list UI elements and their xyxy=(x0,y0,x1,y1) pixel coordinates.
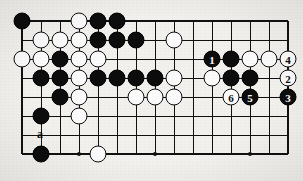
stone-white[interactable] xyxy=(71,108,88,125)
move-stone-black-5[interactable]: 5 xyxy=(242,89,259,106)
stone-black[interactable] xyxy=(90,70,107,87)
stone-black[interactable] xyxy=(33,146,50,163)
stone-white[interactable] xyxy=(52,32,69,49)
stone-white[interactable] xyxy=(166,70,183,87)
grid-line-vertical xyxy=(231,21,232,154)
move-stone-black-1[interactable]: 1 xyxy=(204,51,221,68)
move-stone-white-6[interactable]: 6 xyxy=(223,89,240,106)
stone-black[interactable] xyxy=(33,108,50,125)
stone-black[interactable] xyxy=(109,70,126,87)
stone-white[interactable] xyxy=(242,51,259,68)
stone-black[interactable] xyxy=(14,13,31,30)
move-number-label: 2 xyxy=(281,71,296,86)
stone-black[interactable] xyxy=(52,70,69,87)
stone-white[interactable] xyxy=(166,89,183,106)
stone-white[interactable] xyxy=(71,70,88,87)
move-stone-white-2[interactable]: 2 xyxy=(280,70,297,87)
stone-white[interactable] xyxy=(33,51,50,68)
stone-black[interactable] xyxy=(109,13,126,30)
stone-white[interactable] xyxy=(90,51,107,68)
stone-white[interactable] xyxy=(204,70,221,87)
stone-black[interactable] xyxy=(90,13,107,30)
move-stone-black-3[interactable]: 3 xyxy=(280,89,297,106)
stone-white[interactable] xyxy=(14,51,31,68)
stone-white[interactable] xyxy=(33,32,50,49)
move-number-label: 1 xyxy=(205,52,220,67)
go-board[interactable]: a142653 xyxy=(0,0,303,181)
stone-black[interactable] xyxy=(90,32,107,49)
star-point xyxy=(153,152,157,156)
star-point xyxy=(77,152,81,156)
go-diagram-page: a142653 xyxy=(0,0,303,181)
grid-line-vertical xyxy=(287,21,289,154)
stone-white[interactable] xyxy=(261,51,278,68)
stone-white[interactable] xyxy=(147,89,164,106)
move-number-label: 6 xyxy=(224,90,239,105)
stone-black[interactable] xyxy=(223,51,240,68)
stone-black[interactable] xyxy=(109,32,126,49)
stone-white[interactable] xyxy=(71,32,88,49)
move-number-label: 5 xyxy=(243,90,258,105)
stone-black[interactable] xyxy=(52,89,69,106)
move-number-label: 3 xyxy=(281,90,296,105)
stone-black[interactable] xyxy=(52,51,69,68)
grid-line-vertical xyxy=(155,21,156,154)
stone-black[interactable] xyxy=(128,32,145,49)
star-point xyxy=(248,152,252,156)
grid-line-vertical xyxy=(21,21,23,154)
stone-white[interactable] xyxy=(71,13,88,30)
grid-line-vertical xyxy=(212,21,213,154)
stone-white[interactable] xyxy=(166,32,183,49)
stone-black[interactable] xyxy=(33,70,50,87)
board-marker-a: a xyxy=(37,128,43,140)
stone-white[interactable] xyxy=(128,89,145,106)
grid-line-vertical xyxy=(250,21,251,154)
stone-white[interactable] xyxy=(90,146,107,163)
move-stone-white-4[interactable]: 4 xyxy=(280,51,297,68)
stone-black[interactable] xyxy=(242,70,259,87)
stone-black[interactable] xyxy=(128,70,145,87)
stone-white[interactable] xyxy=(71,89,88,106)
move-number-label: 4 xyxy=(281,52,296,67)
grid-line-vertical xyxy=(193,21,194,154)
grid-line-vertical xyxy=(269,21,270,154)
stone-black[interactable] xyxy=(147,70,164,87)
stone-white[interactable] xyxy=(71,51,88,68)
stone-black[interactable] xyxy=(223,70,240,87)
